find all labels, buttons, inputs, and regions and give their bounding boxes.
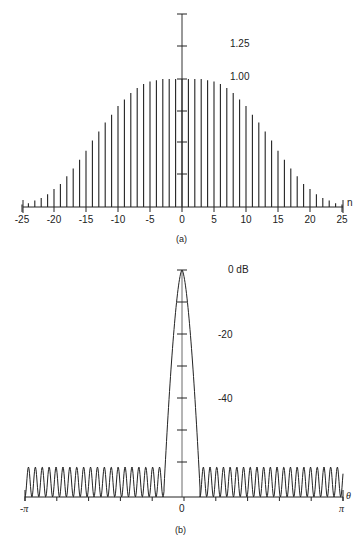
x-axis-label-theta: θ	[346, 490, 351, 501]
x-ticks-a: -25-20-15-10-50510152025	[15, 207, 348, 225]
x-tick-label: 15	[272, 214, 284, 225]
x-tick-label: 5	[211, 214, 217, 225]
x-label-pi: π	[339, 503, 345, 514]
caption-b: (b)	[175, 525, 186, 535]
x-axis-label-a: n	[347, 197, 353, 208]
y-label-1-25: 1.25	[230, 38, 250, 49]
y-label-1-00: 1.00	[230, 71, 250, 82]
x-tick-label: 0	[179, 214, 185, 225]
x-tick-label: 10	[240, 214, 252, 225]
y-label-0db: 0 dB	[228, 264, 249, 275]
x-tick-label: -25	[15, 214, 30, 225]
x-label-minus-pi: -π	[20, 503, 29, 514]
chart-a: -25-20-15-10-50510152025 1.25 1.00 n (a)	[15, 14, 353, 244]
x-tick-label: -15	[79, 214, 94, 225]
figure: -25-20-15-10-50510152025 1.25 1.00 n (a)…	[0, 0, 362, 541]
x-tick-label: -5	[146, 214, 155, 225]
x-tick-label: 25	[336, 214, 348, 225]
x-tick-label: -20	[47, 214, 62, 225]
spectrum-curve	[25, 270, 343, 497]
caption-a: (a)	[176, 234, 187, 244]
y-label-minus40: -40	[218, 393, 233, 404]
chart-b: 0 dB -20 -40 -π 0 π θ (b)	[20, 264, 351, 535]
x-label-zero: 0	[179, 503, 185, 514]
x-tick-label: -10	[111, 214, 126, 225]
x-tick-label: 20	[304, 214, 316, 225]
y-label-minus20: -20	[218, 329, 233, 340]
